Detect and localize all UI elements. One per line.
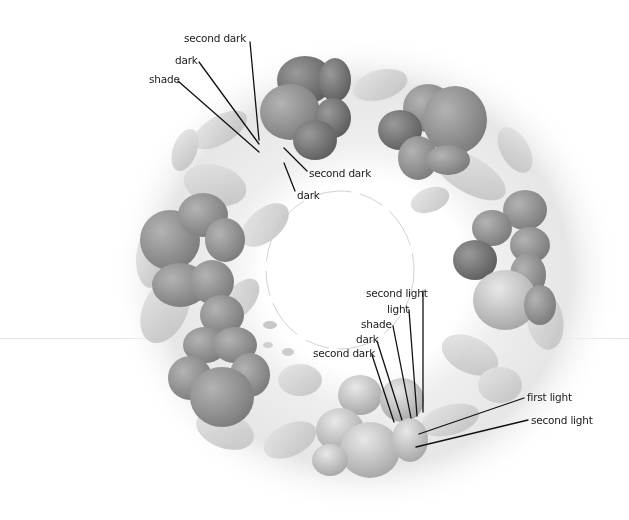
label-top-second-dark-2: second dark — [309, 167, 371, 179]
label-top-dark-2: dark — [297, 189, 320, 201]
label-bottom-second-dark: second dark — [313, 347, 375, 359]
label-bottom-light: light — [387, 303, 409, 315]
wreath-diagram: second dark dark shade second dark dark … — [0, 0, 629, 520]
label-top-second-dark: second dark — [184, 32, 246, 44]
wreath-illustration — [0, 0, 629, 520]
label-bottom-shade: shade — [361, 318, 392, 330]
label-bottom-second-light: second light — [366, 287, 428, 299]
label-top-shade: shade — [149, 73, 180, 85]
label-top-dark: dark — [175, 54, 198, 66]
label-bottom-dark: dark — [356, 333, 379, 345]
label-bottom-first-light: first light — [527, 391, 572, 403]
label-bottom-second-light-2: second light — [531, 414, 593, 426]
